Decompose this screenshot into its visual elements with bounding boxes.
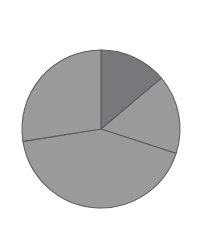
- pie-chart-figure: [0, 0, 213, 240]
- pie-slice-group: [22, 50, 180, 208]
- pie-chart-canvas: [0, 0, 213, 240]
- pie-slice-4: [22, 50, 101, 141]
